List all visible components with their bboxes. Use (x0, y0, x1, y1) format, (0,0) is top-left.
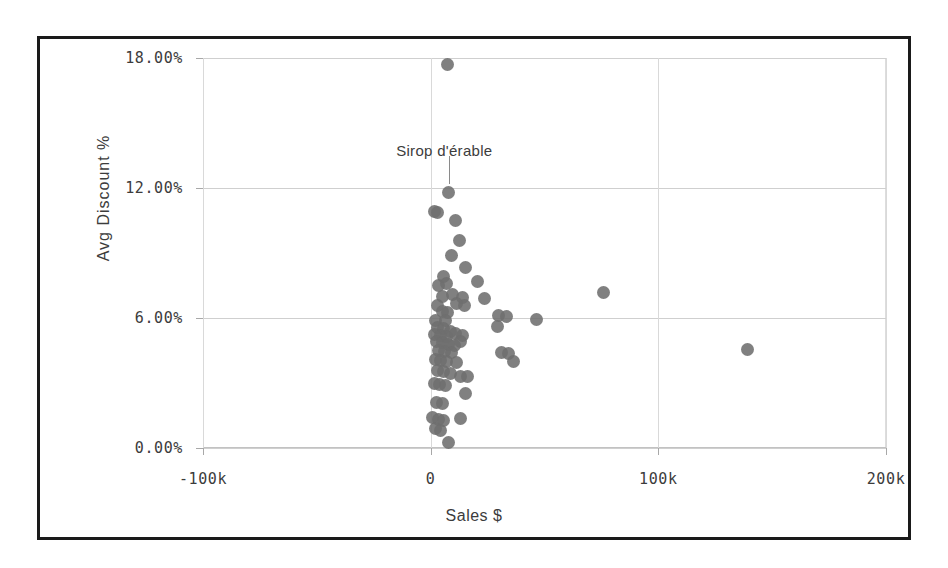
scatter-point[interactable] (441, 58, 454, 71)
gridline-horizontal (203, 188, 886, 189)
x-tick-mark (658, 448, 659, 455)
y-tick-mark (196, 58, 203, 59)
scatter-point[interactable] (453, 234, 466, 247)
gridline-vertical (658, 58, 659, 448)
y-tick-label: 18.00% (125, 49, 183, 67)
x-tick-label: 0 (426, 470, 436, 488)
scatter-point[interactable] (439, 379, 452, 392)
y-tick-label: 12.00% (125, 179, 183, 197)
x-tick-label: 200k (867, 470, 906, 488)
scatter-point[interactable] (454, 335, 467, 348)
scatter-point[interactable] (436, 397, 449, 410)
gridline-vertical (203, 58, 204, 448)
y-tick-mark (196, 188, 203, 189)
y-axis-title: Avg Discount % (95, 98, 113, 298)
gridline-horizontal (203, 58, 886, 59)
scatter-point[interactable] (478, 292, 491, 305)
scatter-point[interactable] (442, 186, 455, 199)
y-tick-label: 6.00% (135, 309, 183, 327)
chart-frame: Avg Discount % Sirop d'érable 0.00%6.00%… (37, 36, 911, 540)
scatter-point[interactable] (449, 214, 462, 227)
x-axis-title: Sales $ (40, 507, 908, 525)
scatter-point[interactable] (431, 206, 444, 219)
gridline-horizontal (203, 318, 886, 319)
scatter-point[interactable] (741, 343, 754, 356)
plot-area: Sirop d'érable (203, 58, 886, 448)
scatter-point[interactable] (471, 275, 484, 288)
x-tick-mark (886, 448, 887, 455)
annotation-label: Sirop d'érable (396, 142, 492, 159)
scatter-point[interactable] (461, 370, 474, 383)
scatter-point[interactable] (507, 355, 520, 368)
scatter-point[interactable] (491, 320, 504, 333)
scatter-point[interactable] (454, 412, 467, 425)
scatter-point[interactable] (530, 313, 543, 326)
chart-screenshot: Avg Discount % Sirop d'érable 0.00%6.00%… (0, 0, 948, 568)
scatter-point[interactable] (434, 424, 447, 437)
scatter-point[interactable] (459, 261, 472, 274)
gridline-vertical (886, 58, 887, 448)
scatter-point[interactable] (597, 286, 610, 299)
gridline-vertical (431, 58, 432, 448)
scatter-point[interactable] (458, 299, 471, 312)
y-tick-label: 0.00% (135, 439, 183, 457)
x-tick-label: -100k (179, 470, 227, 488)
y-tick-mark (196, 448, 203, 449)
scatter-point[interactable] (459, 387, 472, 400)
x-tick-label: 100k (639, 470, 678, 488)
gridline-horizontal (203, 448, 886, 449)
annotation-leader-line (449, 156, 450, 184)
x-tick-mark (431, 448, 432, 455)
scatter-point[interactable] (445, 249, 458, 262)
y-tick-mark (196, 318, 203, 319)
x-tick-mark (203, 448, 204, 455)
